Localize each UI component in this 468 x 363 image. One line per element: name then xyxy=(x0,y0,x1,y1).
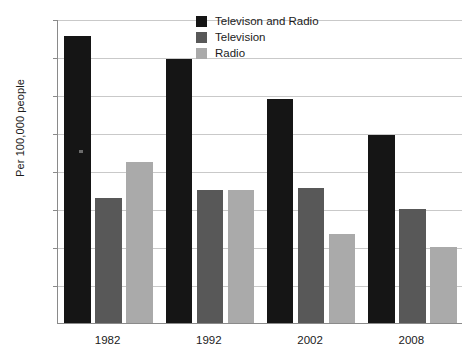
legend-item: Televison and Radio xyxy=(196,14,319,28)
bar-group xyxy=(267,20,356,323)
x-tick-label: 2008 xyxy=(399,334,425,346)
y-tick-mark xyxy=(53,96,58,97)
y-axis-title: Per 100,000 people xyxy=(14,48,26,208)
plot-area xyxy=(57,20,462,324)
legend-label: Television xyxy=(215,31,266,43)
bar xyxy=(64,36,91,323)
bar xyxy=(368,135,395,323)
legend-swatch-icon xyxy=(196,32,207,43)
legend-item: Television xyxy=(196,30,319,44)
bar-group xyxy=(64,20,153,323)
bar xyxy=(126,162,153,324)
plot-inner xyxy=(58,20,462,323)
bar xyxy=(95,198,122,323)
y-tick-mark xyxy=(53,286,58,287)
x-tick-label: 1992 xyxy=(196,334,222,346)
legend-label: Radio xyxy=(215,47,245,59)
legend-item: Radio xyxy=(196,46,319,60)
x-tick-label: 2002 xyxy=(297,334,323,346)
legend: Televison and RadioTelevisionRadio xyxy=(196,14,319,62)
scan-artifact xyxy=(79,150,83,153)
bar-chart: Per 100,000 people 0.020.040.060.080.100… xyxy=(0,0,468,363)
bar xyxy=(228,190,255,323)
bar xyxy=(267,99,294,323)
bar-group xyxy=(368,20,457,323)
bar xyxy=(166,59,193,323)
bar xyxy=(197,190,224,323)
y-tick-mark xyxy=(53,20,58,21)
y-tick-mark xyxy=(53,172,58,173)
bar xyxy=(298,188,325,323)
bar xyxy=(329,234,356,323)
bar xyxy=(399,209,426,323)
y-tick-mark xyxy=(53,210,58,211)
y-tick-mark xyxy=(53,248,58,249)
bar-group xyxy=(166,20,255,323)
y-tick-mark xyxy=(53,134,58,135)
y-tick-mark xyxy=(53,58,58,59)
legend-label: Televison and Radio xyxy=(215,15,319,27)
legend-swatch-icon xyxy=(196,16,207,27)
bar xyxy=(430,247,457,323)
legend-swatch-icon xyxy=(196,48,207,59)
x-tick-label: 1982 xyxy=(95,334,121,346)
